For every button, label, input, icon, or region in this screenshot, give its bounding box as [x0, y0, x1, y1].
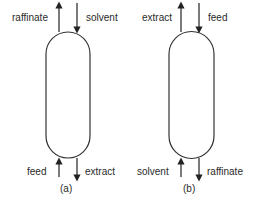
- label-a-raffinate: raffinate: [12, 12, 48, 24]
- label-b-raffinate: raffinate: [207, 166, 243, 178]
- label-a-extract: extract: [85, 166, 115, 178]
- label-a-solvent: solvent: [86, 12, 118, 24]
- label-b-extract: extract: [142, 12, 172, 24]
- caption-b: (b): [183, 183, 195, 195]
- label-a-feed: feed: [27, 166, 46, 178]
- caption-a: (a): [60, 183, 72, 195]
- label-b-solvent: solvent: [137, 166, 169, 178]
- label-b-feed: feed: [208, 12, 227, 24]
- column-b: [169, 3, 214, 178]
- column-a: [46, 3, 90, 178]
